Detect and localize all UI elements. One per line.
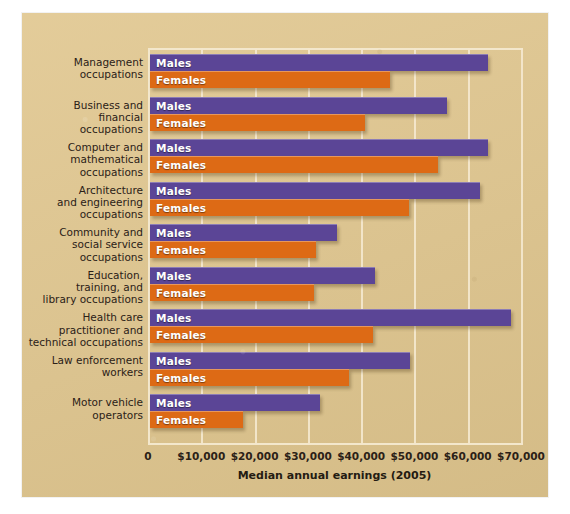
- x-tick-label: $10,000: [177, 450, 225, 462]
- bar-slot: Males: [148, 224, 521, 241]
- bar-group: Management occupationsMalesFemales: [148, 54, 521, 88]
- plot-area: Management occupationsMalesFemalesBusine…: [148, 48, 521, 445]
- bar-slot: Females: [148, 199, 521, 216]
- bar-slot: Females: [148, 241, 521, 258]
- x-tick-label: $20,000: [231, 450, 279, 462]
- x-tick-label: $50,000: [391, 450, 439, 462]
- category-label: Health care practitioner and technical o…: [0, 311, 143, 348]
- bar-males: Males: [150, 224, 337, 241]
- series-label: Females: [156, 414, 206, 426]
- x-tick-label: 0: [144, 450, 151, 462]
- category-label: Community and social service occupations: [0, 226, 143, 263]
- series-label: Males: [156, 312, 192, 324]
- series-label: Males: [156, 57, 192, 69]
- bar-males: Males: [150, 182, 480, 199]
- series-label: Females: [156, 329, 206, 341]
- series-label: Males: [156, 185, 192, 197]
- series-label: Females: [156, 372, 206, 384]
- bar-group: Law enforcement workersMalesFemales: [148, 352, 521, 386]
- bar-males: Males: [150, 352, 410, 369]
- category-label: Management occupations: [0, 56, 143, 80]
- bar-group: Motor vehicle operatorsMalesFemales: [148, 394, 521, 428]
- bar-males: Males: [150, 54, 488, 71]
- bar-slot: Females: [148, 114, 521, 131]
- bar-females: Females: [150, 156, 438, 173]
- bar-males: Males: [150, 97, 447, 114]
- bar-slot: Females: [148, 369, 521, 386]
- bar-females: Females: [150, 114, 365, 131]
- bar-group: Health care practitioner and technical o…: [148, 309, 521, 343]
- bar-males: Males: [150, 309, 511, 326]
- series-label: Males: [156, 100, 192, 112]
- bar-males: Males: [150, 394, 320, 411]
- x-tick-label: $60,000: [444, 450, 492, 462]
- series-label: Males: [156, 355, 192, 367]
- x-tick-label: $40,000: [337, 450, 385, 462]
- bar-group: Computer and mathematical occupationsMal…: [148, 139, 521, 173]
- series-label: Males: [156, 270, 192, 282]
- bar-slot: Females: [148, 71, 521, 88]
- x-axis-title: Median annual earnings (2005): [148, 469, 521, 482]
- bar-slot: Males: [148, 267, 521, 284]
- series-label: Females: [156, 74, 206, 86]
- bar-females: Females: [150, 241, 316, 258]
- bar-slot: Males: [148, 352, 521, 369]
- series-label: Females: [156, 244, 206, 256]
- bar-slot: Males: [148, 54, 521, 71]
- bar-slot: Males: [148, 309, 521, 326]
- bar-group: Community and social service occupations…: [148, 224, 521, 258]
- bar-group: Architecture and engineering occupations…: [148, 182, 521, 216]
- series-label: Males: [156, 142, 192, 154]
- series-label: Females: [156, 202, 206, 214]
- bar-slot: Males: [148, 394, 521, 411]
- series-label: Males: [156, 397, 192, 409]
- chart-figure: Management occupationsMalesFemalesBusine…: [22, 13, 548, 497]
- bar-group: Business and financial occupationsMalesF…: [148, 97, 521, 131]
- category-label: Motor vehicle operators: [0, 396, 143, 420]
- series-label: Females: [156, 287, 206, 299]
- gridline: [521, 48, 523, 445]
- x-tick-label: $30,000: [284, 450, 332, 462]
- series-label: Females: [156, 159, 206, 171]
- bar-slot: Females: [148, 326, 521, 343]
- category-label: Business and financial occupations: [0, 99, 143, 136]
- bar-slot: Males: [148, 139, 521, 156]
- bar-males: Males: [150, 267, 375, 284]
- category-label: Education, training, and library occupat…: [0, 269, 143, 306]
- x-tick-label: $70,000: [497, 450, 545, 462]
- category-label: Architecture and engineering occupations: [0, 184, 143, 221]
- bar-slot: Females: [148, 411, 521, 428]
- bar-slot: Females: [148, 156, 521, 173]
- bar-females: Females: [150, 326, 373, 343]
- bar-group: Education, training, and library occupat…: [148, 267, 521, 301]
- bar-males: Males: [150, 139, 488, 156]
- bar-females: Females: [150, 284, 314, 301]
- bar-females: Females: [150, 71, 390, 88]
- bar-females: Females: [150, 411, 243, 428]
- series-label: Females: [156, 117, 206, 129]
- series-label: Males: [156, 227, 192, 239]
- bar-slot: Females: [148, 284, 521, 301]
- bar-slot: Males: [148, 97, 521, 114]
- category-label: Law enforcement workers: [0, 354, 143, 378]
- bar-females: Females: [150, 369, 349, 386]
- category-label: Computer and mathematical occupations: [0, 141, 143, 178]
- bar-females: Females: [150, 199, 409, 216]
- bar-slot: Males: [148, 182, 521, 199]
